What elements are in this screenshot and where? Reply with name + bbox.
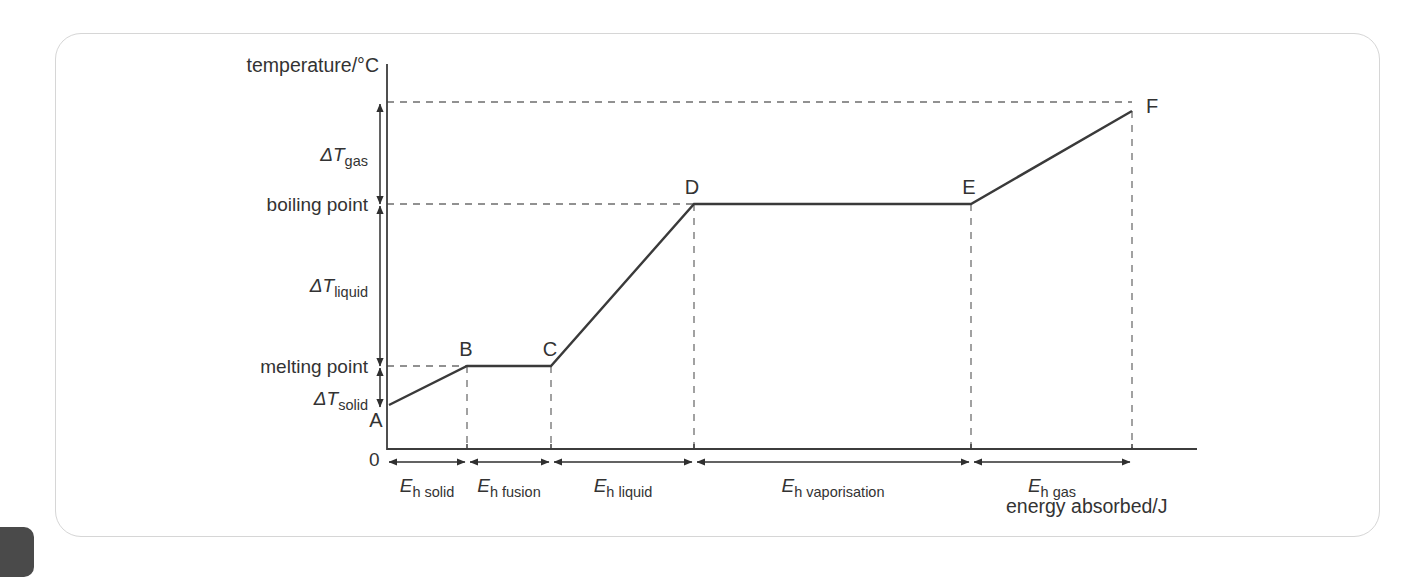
e-h-fusion-label: Eh fusion [477,475,540,500]
delta-t-solid-subscript: solid [338,397,368,413]
heating-curve-polyline [389,111,1132,405]
e-h-gas-subscript: h gas [1041,484,1076,500]
origin-label: 0 [369,449,380,470]
delta-t-liquid-symbol: ΔT [309,275,336,296]
e-h-fusion-subscript: h fusion [490,484,541,500]
e-h-liquid-label: Eh liquid [594,475,653,500]
point-label-f: F [1146,95,1158,117]
delta-t-liquid-label: ΔTliquid [309,275,368,300]
y-axis-label: temperature/°C [247,54,379,76]
point-label-a: A [369,409,383,431]
boiling-point-label: boiling point [267,194,369,215]
point-label-e: E [962,176,975,198]
delta-t-solid-symbol: ΔT [313,388,340,409]
e-h-vaporisation-subscript: h vaporisation [794,484,884,500]
delta-t-gas-subscript: gas [345,153,368,169]
e-h-liquid-symbol: E [594,475,607,496]
delta-t-gas-symbol: ΔT [319,144,346,165]
e-h-liquid-subscript: h liquid [606,484,652,500]
delta-t-liquid-subscript: liquid [334,284,368,300]
point-label-c: C [543,338,557,360]
delta-t-solid-label: ΔTsolid [313,388,368,413]
point-label-b: B [459,338,472,360]
melting-point-label: melting point [260,356,368,377]
e-h-vaporisation-symbol: E [782,475,795,496]
x-axis-label: energy absorbed/J [1006,495,1168,517]
page-corner-tab [0,527,34,577]
e-h-solid-symbol: E [400,475,413,496]
figure-card: temperature/°C energy absorbed/J 0 boili… [55,33,1380,537]
heating-curve-chart: temperature/°C energy absorbed/J 0 boili… [56,34,1381,538]
e-h-solid-subscript: h solid [412,484,454,500]
point-label-d: D [685,176,699,198]
e-h-solid-label: Eh solid [400,475,455,500]
e-h-gas-symbol: E [1028,475,1041,496]
e-h-vaporisation-label: Eh vaporisation [782,475,885,500]
delta-t-gas-label: ΔTgas [319,144,368,169]
e-h-fusion-symbol: E [477,475,490,496]
